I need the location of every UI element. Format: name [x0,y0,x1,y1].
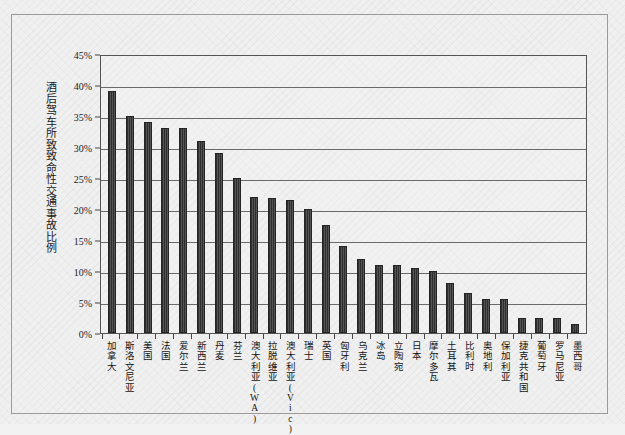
x-axis-tick-slot [156,334,174,340]
x-axis-category-label: 澳大利亚(Vic) [284,341,295,429]
x-axis-label-slot: 加拿大 [102,341,120,429]
bar [108,91,116,333]
x-axis-label-slot: 冰岛 [370,341,388,429]
x-axis-category-label: 法国 [159,341,170,429]
x-axis-tick-slot [567,334,585,340]
x-axis-tick-slot [513,334,531,340]
x-axis-category-label: 土耳其 [445,341,456,429]
x-axis-label-slot: 丹麦 [209,341,227,429]
bar [571,324,579,333]
x-axis-tick-mark [513,334,514,339]
bar-slot [477,56,495,333]
x-axis-label-slot: 摩尔多瓦 [424,341,442,429]
x-axis-tick-slot [227,334,245,340]
x-axis-tick-slot [388,334,406,340]
x-axis-category-label: 比利时 [463,341,474,429]
y-axis-tick-labels: 45%40%35%30%25%20%15%10%5%0% [58,55,98,334]
x-axis-label-slot: 保加利亚 [496,341,514,429]
bar-slot [459,56,477,333]
x-axis-tick-slot [549,334,567,340]
x-axis-category-label: 冰岛 [374,341,385,429]
x-axis-tick-mark [280,334,281,339]
x-axis-tick-mark [137,334,138,339]
x-axis-tick-slot [102,334,120,340]
x-axis-tick-slot [281,334,299,340]
bar-slot [441,56,459,333]
x-axis-label-slot: 斯洛文尼亚 [120,341,138,429]
bar [286,200,294,333]
x-axis-tick-slot [335,334,353,340]
x-axis-tick-slot [478,334,496,340]
x-axis-tick-marks [100,334,587,340]
x-axis-tick-mark [388,334,389,339]
x-axis-tick-slot [370,334,388,340]
x-axis-label-slot: 匈牙利 [335,341,353,429]
bar [233,178,241,333]
bar-slot [103,56,121,333]
bar [322,225,330,334]
bar-slot [406,56,424,333]
bar [126,116,134,333]
x-axis-label-slot: 爱尔兰 [174,341,192,429]
x-axis-tick-mark [370,334,371,339]
x-axis-category-label: 丹麦 [213,341,224,429]
x-axis-category-label: 保加利亚 [499,341,510,429]
y-axis-tick-label: 15% [74,236,92,247]
figure-frame: 酒后驾车所致致命性交通事故比例 45%40%35%30%25%20%15%10%… [11,14,608,414]
bar [197,141,205,333]
bar-slot [388,56,406,333]
x-axis-tick-slot [263,334,281,340]
bar [179,128,187,333]
y-axis-tick-label: 25% [74,174,92,185]
y-axis-title: 酒后驾车所致致命性交通事故比例 [42,81,58,311]
y-axis-tick-label: 5% [79,298,92,309]
bar-slot [495,56,513,333]
x-axis-label-slot: 立陶宛 [388,341,406,429]
bar [161,128,169,333]
bar-slot [246,56,264,333]
x-axis-category-label: 匈牙利 [338,341,349,429]
bar-slot [370,56,388,333]
x-axis-tick-slot [496,334,514,340]
x-axis-label-slot: 日本 [406,341,424,429]
x-axis-category-label: 葡萄牙 [535,341,546,429]
bar [304,209,312,333]
bar-slot [263,56,281,333]
x-axis-tick-mark [298,334,299,339]
x-axis-category-label: 斯洛文尼亚 [123,341,134,429]
x-axis-tick-slot [209,334,227,340]
x-axis-category-label: 墨西哥 [571,341,582,429]
x-axis-tick-mark [119,334,120,339]
bar-slot [281,56,299,333]
x-axis-label-slot: 拉脱维亚 [263,341,281,429]
x-axis-tick-mark [406,334,407,339]
x-axis-label-slot: 芬兰 [227,341,245,429]
y-axis-tick-label: 30% [74,143,92,154]
x-axis-tick-slot [245,334,263,340]
x-axis-category-label: 日本 [410,341,421,429]
bar-slot [566,56,584,333]
bar [500,299,508,333]
bar [482,299,490,333]
y-axis-tick-label: 0% [79,329,92,340]
x-axis-category-label: 乌克兰 [356,341,367,429]
y-axis-tick-label: 35% [74,112,92,123]
bar [464,293,472,333]
bar [411,268,419,333]
bar [393,265,401,333]
x-axis-tick-mark [173,334,174,339]
x-axis-label-slot: 英国 [317,341,335,429]
x-axis-tick-mark [334,334,335,339]
bar [250,197,258,333]
x-axis-tick-slot [317,334,335,340]
x-axis-label-slot: 比利时 [460,341,478,429]
y-axis-tick-label: 10% [74,267,92,278]
bar-slot [424,56,442,333]
x-axis-category-label: 新西兰 [195,341,206,429]
x-axis-tick-mark [424,334,425,339]
bar-slot [156,56,174,333]
x-axis-tick-slot [120,334,138,340]
x-axis-category-labels: 加拿大斯洛文尼亚美国法国爱尔兰新西兰丹麦芬兰澳大利亚(WA)拉脱维亚澳大利亚(V… [100,341,587,429]
x-axis-category-label: 奥地利 [481,341,492,429]
